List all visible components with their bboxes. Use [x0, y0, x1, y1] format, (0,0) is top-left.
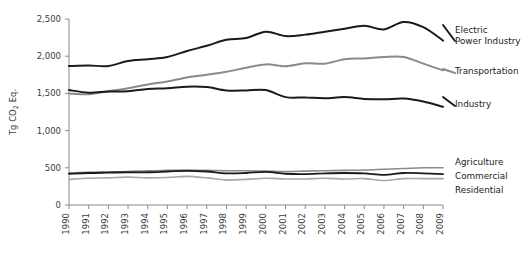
chart-canvas: 05001,0001,5002,0002,500 199019911992199…: [0, 0, 525, 258]
y-axis-title-text: Tg CO2 Eq.: [8, 89, 20, 136]
x-tick-label: 2006: [376, 213, 386, 235]
line-chart: 05001,0001,5002,0002,500 199019911992199…: [0, 0, 525, 258]
x-tick-label: 2003: [317, 213, 327, 235]
x-tick-label: 1997: [199, 213, 209, 235]
y-tick-label: 2,500: [37, 14, 61, 24]
x-tick-label: 2007: [396, 213, 406, 235]
x-tick-labels: 1990199119921993199419951996199719981999…: [61, 213, 445, 235]
legend-leader-line: [443, 97, 455, 106]
legend-label-electric-power-industry: ElectricPower Industry: [455, 25, 521, 46]
legend: ElectricPower IndustryTransportationIndu…: [437, 25, 521, 195]
legend-leader-line: [443, 69, 455, 73]
x-tick-label: 1992: [100, 213, 110, 235]
x-tick-label: 1995: [159, 213, 169, 235]
legend-leader-line: [443, 25, 455, 41]
legend-label-transportation: Transportation: [454, 66, 519, 76]
x-tick-label: 1996: [179, 213, 189, 235]
x-tick-label: 2000: [258, 213, 268, 235]
series-layer: [69, 22, 443, 181]
x-tick-label: 2009: [435, 213, 445, 235]
x-tick-label: 1993: [120, 213, 130, 235]
legend-label-residential: Residential: [455, 185, 503, 195]
y-tick-label: 2,000: [37, 51, 61, 61]
x-tick-label: 2005: [356, 213, 366, 235]
legend-label-industry: Industry: [455, 99, 491, 109]
series-line-residential: [69, 176, 443, 180]
x-tick-label: 2004: [337, 213, 347, 235]
x-tick-label: 1998: [218, 213, 228, 235]
x-tick-label: 1990: [61, 213, 71, 235]
x-tick-label: 2001: [278, 213, 288, 235]
y-tick-label: 1,500: [37, 88, 61, 98]
x-tick-label: 2002: [297, 213, 307, 235]
x-tick-label: 1994: [140, 213, 150, 235]
x-tick-label: 1991: [81, 213, 91, 235]
legend-label-agriculture: Agriculture: [455, 157, 503, 167]
series-line-electric-power-industry: [69, 22, 443, 66]
y-tick-label: 500: [45, 163, 61, 173]
y-tick-label: 1,000: [37, 126, 61, 136]
y-tick-label: 0: [56, 200, 61, 210]
y-tick-labels: 05001,0001,5002,0002,500: [37, 14, 61, 210]
x-tick-label: 2008: [415, 213, 425, 235]
x-tick-label: 1999: [238, 213, 248, 235]
y-axis-title: Tg CO2 Eq.: [8, 89, 20, 136]
legend-label-commercial: Commercial: [455, 171, 508, 181]
